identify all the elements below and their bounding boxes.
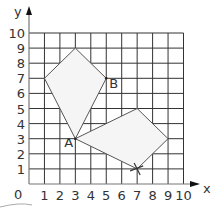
x-tick-label: 7 bbox=[133, 188, 141, 203]
y-axis-arrow-icon bbox=[26, 6, 32, 15]
point-label-a: A bbox=[64, 135, 73, 150]
x-tick-label: 1 bbox=[40, 188, 48, 203]
x-axis-label: x bbox=[203, 181, 211, 196]
y-tick-label: 1 bbox=[17, 162, 25, 177]
y-tick-label: 3 bbox=[17, 132, 25, 147]
y-tick-label: 4 bbox=[17, 117, 25, 132]
x-tick-label: 9 bbox=[164, 188, 172, 203]
x-tick-label: 10 bbox=[175, 188, 192, 203]
y-tick-label: 10 bbox=[8, 26, 25, 41]
kite-shape bbox=[44, 48, 106, 139]
coordinate-grid-diagram: yx01234567891012345678910AB bbox=[0, 0, 216, 212]
y-tick-label: 7 bbox=[17, 71, 25, 86]
x-tick-label: 3 bbox=[71, 188, 79, 203]
point-label-b: B bbox=[109, 76, 118, 91]
point-b bbox=[105, 77, 108, 80]
y-tick-label: 6 bbox=[17, 86, 25, 101]
y-tick-label: 2 bbox=[17, 147, 25, 162]
quadrilateral-shape bbox=[75, 109, 168, 169]
y-tick-label: 9 bbox=[17, 41, 25, 56]
y-axis-label: y bbox=[14, 4, 22, 19]
x-tick-label: 4 bbox=[87, 188, 95, 203]
decorative-curve bbox=[0, 204, 32, 207]
y-tick-label: 8 bbox=[17, 56, 25, 71]
x-axis-arrow-icon bbox=[190, 181, 200, 187]
x-tick-label: 8 bbox=[148, 188, 156, 203]
point-a bbox=[74, 137, 77, 140]
y-tick-label: 5 bbox=[17, 102, 25, 117]
x-tick-label: 5 bbox=[102, 188, 110, 203]
origin-label: 0 bbox=[14, 187, 22, 202]
x-tick-label: 6 bbox=[118, 188, 126, 203]
x-tick-label: 2 bbox=[56, 188, 64, 203]
